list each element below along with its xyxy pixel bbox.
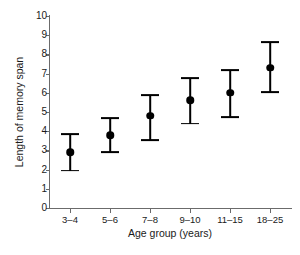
- point-marker: [146, 112, 154, 120]
- point-marker: [186, 97, 194, 105]
- x-tick-4: [230, 208, 231, 213]
- errorbar-cap-upper: [101, 117, 119, 119]
- errorbar-cap-upper: [61, 133, 79, 135]
- y-tick-label-1: 1: [41, 184, 47, 194]
- x-tick-2: [150, 208, 151, 213]
- x-tick-label-2: 7–8: [142, 215, 158, 225]
- x-tick-label-1: 5–6: [102, 215, 118, 225]
- x-tick-label-0: 3–4: [62, 215, 78, 225]
- point-marker: [266, 64, 274, 72]
- point-marker: [66, 149, 74, 157]
- y-axis-title: Length of memory span: [12, 16, 26, 208]
- x-tick-label-5: 18–25: [257, 215, 283, 225]
- y-tick-label-6: 6: [41, 88, 47, 98]
- errorbar-cap-upper: [261, 41, 279, 43]
- x-tick-label-4: 11–15: [217, 215, 243, 225]
- x-axis-title: Age group (years): [50, 228, 290, 239]
- y-tick-label-0: 0: [41, 203, 47, 213]
- y-tick-label-2: 2: [41, 165, 47, 175]
- point-marker: [106, 131, 114, 139]
- y-tick-label-9: 9: [41, 30, 47, 40]
- errorbar-cap-lower: [101, 151, 119, 153]
- errorbar-cap-lower: [141, 139, 159, 141]
- errorbar-cap-lower: [181, 123, 199, 125]
- y-tick-label-8: 8: [41, 49, 47, 59]
- y-tick-label-4: 4: [41, 126, 47, 136]
- y-tick-label-3: 3: [41, 145, 47, 155]
- errorbar-cap-lower: [261, 91, 279, 93]
- x-tick-0: [70, 208, 71, 213]
- plot-area: 0123456789103–45–67–89–1011–1518–25: [50, 16, 290, 208]
- y-tick-label-7: 7: [41, 69, 47, 79]
- y-tick-label-5: 5: [41, 107, 47, 117]
- errorbar-cap-lower: [221, 116, 239, 118]
- x-tick-3: [190, 208, 191, 213]
- x-tick-1: [110, 208, 111, 213]
- y-tick-label-10: 10: [36, 11, 47, 21]
- point-marker: [226, 89, 234, 97]
- memory-span-chart: 0123456789103–45–67–89–1011–1518–25 Leng…: [0, 0, 300, 255]
- x-tick-label-3: 9–10: [179, 215, 200, 225]
- x-tick-5: [270, 208, 271, 213]
- errorbar-cap-upper: [181, 77, 199, 79]
- errorbar-cap-upper: [221, 69, 239, 71]
- errorbar-cap-upper: [141, 94, 159, 96]
- errorbar-cap-lower: [61, 170, 79, 172]
